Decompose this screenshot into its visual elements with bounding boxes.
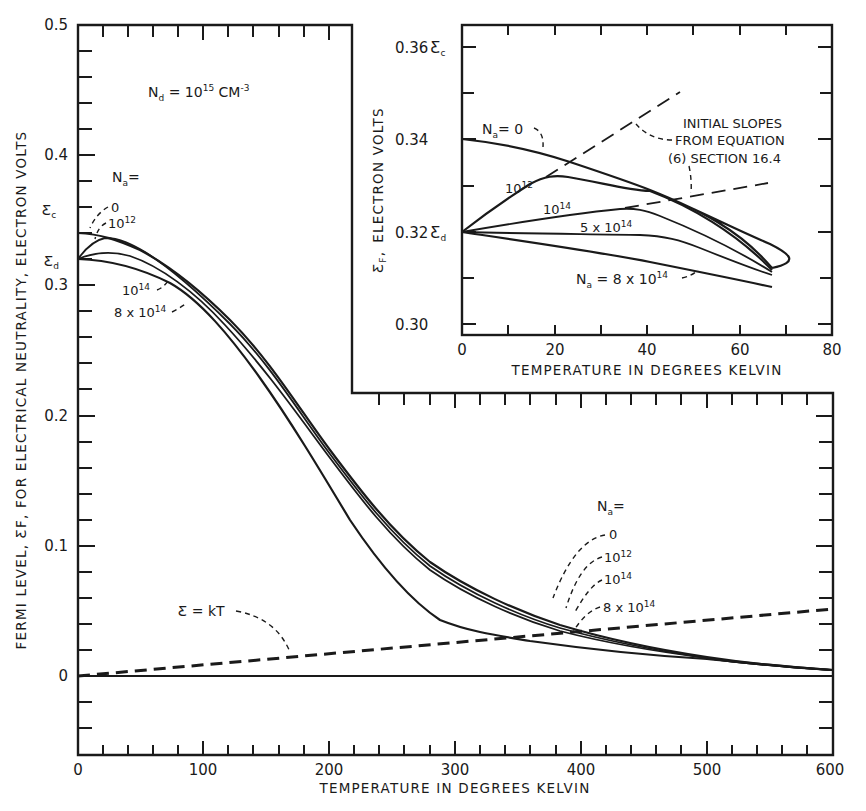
na-0-label-right: 0 [609,527,617,542]
na-label-right: Na= [597,498,625,517]
leader-na12-right [566,557,602,608]
na-1e12-label-right: 1012 [604,549,632,565]
inset-na0-label: Na= 0 [482,121,523,140]
x-tick-300: 300 [441,761,470,779]
x-tick-600: 600 [816,761,845,779]
main-left-ticks [78,51,95,728]
slopes-leader-upper [636,124,672,140]
main-x-axis-title: TEMPERATURE IN DEGREES KELVIN [318,780,590,796]
y-tick-0.3: 0.3 [44,276,68,294]
inset-x-tick-20: 20 [545,341,564,359]
inset-slope-1e12 [546,92,680,177]
na-1e14-label-right: 1014 [604,571,632,587]
y-tick-0.2: 0.2 [44,407,68,425]
y-tick-0.4: 0.4 [44,146,68,164]
slopes-line3: (6) SECTION 16.4 [668,151,781,166]
na-0-label-left: 0 [111,200,119,215]
na-8e14-label-left: 8 x 1014 [114,304,167,320]
na-label-left: Na= [112,169,140,188]
slopes-line1: INITIAL SLOPES [683,116,782,131]
x-tick-100: 100 [189,761,218,779]
na-1e12-label-left: 1012 [108,215,136,231]
inset-y-tick-0.34: 0.34 [395,131,428,149]
inset-y-tick-0.32: 0.32Ƹd [395,224,446,243]
inset-x-tick-labels: 0 20 40 60 80 [457,341,841,359]
y-tick-0.5: 0.5 [44,16,68,34]
curve-ekt [78,609,833,676]
inset-y-tick-0.30: 0.30 [395,316,428,334]
inset-x-axis-title: TEMPERATURE IN DEGREES KELVIN [510,362,782,378]
inset-x-ticks [508,25,786,335]
inset-x-tick-60: 60 [730,341,749,359]
ed-label: Ƹd [44,253,59,271]
inset-y-tick-labels: 0.36Ƹc 0.34 0.32Ƹd 0.30 [395,39,446,334]
slopes-leader-lower [689,166,691,193]
slopes-line2: FROM EQUATION [675,133,785,148]
x-tick-200: 200 [315,761,344,779]
x-tick-400: 400 [567,761,596,779]
inset-y-tick-0.36: 0.36Ƹc [395,39,445,58]
na-8e14-label-right: 8 x 1014 [603,599,656,615]
inset-1e12-label: 1012 [505,180,533,196]
leader-na8e14-left [172,303,187,312]
leader-na8e14-right [573,607,600,632]
main-bottom-ticks [103,741,807,755]
inset-8e14-label: Na = 8 x 1014 [576,270,668,290]
inset-slope-1e14 [625,183,768,208]
inset-leader-na0 [534,128,543,147]
nd-label: Nd = 1015 CM-3 [148,83,249,103]
main-right-ticks [816,416,833,728]
leader-na0-right [553,535,605,598]
x-tick-0: 0 [73,761,83,779]
inset-curve-na-1e14 [462,209,772,272]
inset-x-tick-80: 80 [822,341,841,359]
inset-x-tick-0: 0 [457,341,467,359]
leader-ekt [236,611,290,652]
leader-na0-left [90,207,108,228]
fermi-level-figure: 0.5 0.4 0.3 0.2 0.1 0 0 100 200 300 400 … [0,0,866,811]
x-tick-500: 500 [693,761,722,779]
na-1e14-label-left: 1014 [122,282,150,298]
main-x-tick-labels: 0 100 200 300 400 500 600 [73,761,844,779]
main-y-tick-labels: 0.5 0.4 0.3 0.2 0.1 0 [44,16,68,685]
ec-label: Ƹc [42,202,56,220]
main-y-axis-title: FERMI LEVEL, ƸF, FOR ELECTRICAL NEUTRALI… [13,131,29,650]
y-tick-0.1: 0.1 [44,537,68,555]
inset-plot: 0.36Ƹc 0.34 0.32Ƹd 0.30 0 20 40 60 80 TE… [370,25,842,378]
inset-x-tick-40: 40 [637,341,656,359]
inset-y-axis-title: ƸF,ELECTRON VOLTS [370,107,388,273]
y-tick-0: 0 [58,667,68,685]
inset-frame [462,25,832,335]
inset-5e14-label: 5 x 1014 [580,219,633,235]
ekt-label: Ƹ = kT [178,603,225,619]
